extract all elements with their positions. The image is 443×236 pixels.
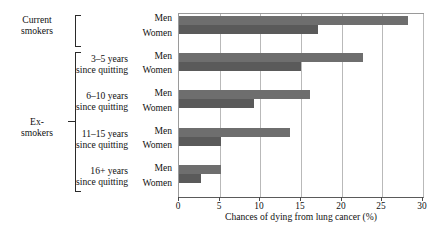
bar-row bbox=[179, 174, 423, 183]
bar-row bbox=[179, 99, 423, 108]
series-label-women-current: Women bbox=[128, 28, 172, 38]
bar-men-1 bbox=[179, 53, 363, 62]
bar-men-2 bbox=[179, 90, 310, 99]
bar-row bbox=[179, 137, 423, 146]
bar-women-4 bbox=[179, 174, 201, 183]
series-label-women-6-10: Women bbox=[128, 103, 172, 113]
series-label-men-3-5: Men bbox=[128, 51, 172, 61]
bracket-arm-bottom bbox=[75, 191, 81, 192]
category-label-16-plus-years: 16+ years since quitting bbox=[36, 165, 128, 188]
lung-cancer-bar-chart: Current smokers Ex- smokers 3–5 years si… bbox=[0, 0, 443, 236]
bar-women-0 bbox=[179, 25, 318, 34]
series-label-women-3-5: Women bbox=[128, 65, 172, 75]
series-label-women-11-15: Women bbox=[128, 140, 172, 150]
category-label-3-5-years: 3–5 years since quitting bbox=[36, 53, 128, 76]
bracket-stem bbox=[68, 121, 75, 122]
series-label-men-6-10: Men bbox=[128, 88, 172, 98]
series-label-men-11-15: Men bbox=[128, 126, 172, 136]
gridline-30 bbox=[423, 14, 424, 197]
bar-women-1 bbox=[179, 62, 301, 71]
series-label-women-16-plus: Women bbox=[128, 178, 172, 188]
bar-row bbox=[179, 16, 423, 25]
series-label-men-current: Men bbox=[128, 13, 172, 23]
category-label-11-15-years: 11–15 years since quitting bbox=[36, 128, 128, 151]
bracket-current-smokers bbox=[75, 15, 82, 47]
bar-row bbox=[179, 62, 423, 71]
x-axis-title: Chances of dying from lung cancer (%) bbox=[178, 211, 424, 222]
bracket-arm-top bbox=[75, 15, 81, 16]
bar-women-2 bbox=[179, 99, 254, 108]
plot-area bbox=[178, 13, 424, 198]
bar-row bbox=[179, 165, 423, 174]
category-label-6-10-years: 6–10 years since quitting bbox=[36, 90, 128, 113]
bar-men-3 bbox=[179, 128, 290, 137]
bar-row bbox=[179, 53, 423, 62]
bracket-vertical bbox=[75, 15, 76, 47]
bar-row bbox=[179, 90, 423, 99]
bar-men-0 bbox=[179, 16, 408, 25]
bar-men-4 bbox=[179, 165, 221, 174]
bar-women-3 bbox=[179, 137, 221, 146]
bar-row bbox=[179, 25, 423, 34]
group-label-current-smokers: Current smokers bbox=[6, 14, 68, 36]
series-label-men-16-plus: Men bbox=[128, 163, 172, 173]
bracket-arm-bottom bbox=[75, 46, 81, 47]
bar-row bbox=[179, 128, 423, 137]
